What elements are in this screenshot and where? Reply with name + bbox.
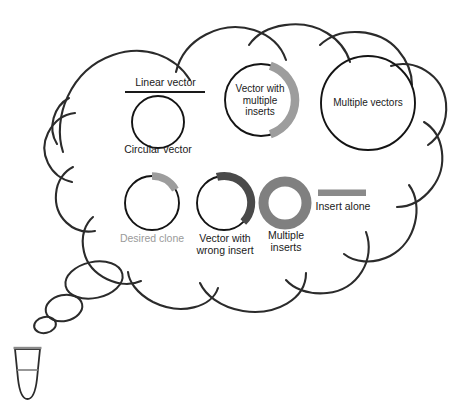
desired-clone-glyph xyxy=(125,176,179,230)
cloning-outcomes-figure: Linear vector Circular vector Vector wit… xyxy=(0,0,471,413)
trail-bubble-small xyxy=(33,315,58,335)
circular-vector-glyph xyxy=(132,96,184,148)
label-insert-alone: Insert alone xyxy=(306,200,380,212)
microcentrifuge-tube xyxy=(14,348,42,399)
multiple-inserts-glyph xyxy=(264,182,307,225)
label-multiple-vectors: Multiple vectors xyxy=(322,97,414,109)
label-multiple-inserts: Multiple inserts xyxy=(256,229,316,253)
figure-canvas xyxy=(0,0,471,413)
vector-with-wrong-insert-glyph xyxy=(197,176,251,230)
insert-alone-glyph xyxy=(318,190,366,197)
trail-bubble-large xyxy=(62,256,126,303)
thought-trail-bubbles xyxy=(33,256,127,335)
label-vector-with-multiple-inserts: Vector with multiple inserts xyxy=(224,83,296,118)
label-circular-vector: Circular vector xyxy=(105,143,211,155)
label-linear-vector: Linear vector xyxy=(113,76,218,88)
